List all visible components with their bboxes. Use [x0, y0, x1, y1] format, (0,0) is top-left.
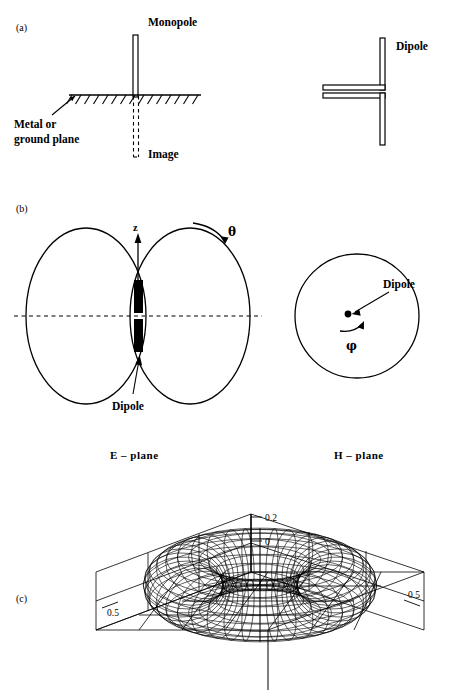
ground-plane-label-line1: Metal or — [14, 118, 56, 130]
torus-wireframe-mesh — [143, 528, 376, 642]
dipole-lower-feed — [323, 93, 385, 98]
ground-plane-label-line2: ground plane — [14, 133, 79, 146]
e-plane-caption: E – plane — [110, 449, 159, 461]
theta-label: θ — [228, 225, 236, 239]
monopole-image-dashed — [134, 96, 139, 157]
dipole-bar-lower — [134, 319, 143, 352]
monopole-label: Monopole — [148, 16, 197, 29]
panel-a: (a) Monopole Metal or ground p — [14, 16, 428, 161]
h-plane-dipole-leader — [355, 292, 389, 312]
y-tick-label-0.5: 0.5 — [408, 590, 420, 600]
y-tick-0.5 — [404, 600, 420, 606]
panel-c-marker: (c) — [16, 593, 27, 605]
h-plane-caption: H – plane — [334, 449, 384, 461]
h-plane-dipole-point — [345, 311, 352, 318]
h-plane-pattern-circle — [295, 254, 419, 378]
dipole-lower-arm — [380, 93, 385, 145]
panel-a-marker: (a) — [16, 22, 27, 34]
phi-arrowhead — [358, 321, 364, 330]
torus-3d-plot: 0.2 0 0.5 0.5 — [96, 513, 424, 690]
ground-plane-hatching — [67, 95, 199, 104]
h-plane-dipole-leader-arrow — [352, 309, 361, 315]
dipole-upper-feed — [323, 85, 385, 90]
panel-b-marker: (b) — [16, 203, 28, 215]
panel-b: (b) z Dipole θ Dipole — [14, 203, 419, 461]
z-tick-label-0.2: 0.2 — [265, 513, 277, 523]
x-tick-label-0.5: 0.5 — [107, 608, 119, 618]
monopole-rod — [133, 35, 138, 97]
theta-arc — [193, 223, 224, 240]
phi-arc — [340, 324, 362, 331]
phi-label: φ — [346, 339, 357, 353]
image-label: Image — [148, 148, 179, 161]
figure-canvas: (a) Monopole Metal or ground p — [0, 0, 452, 697]
h-plane-dipole-label: Dipole — [383, 278, 415, 291]
dipole-bar-upper — [134, 280, 143, 313]
z-axis-label: z — [133, 222, 138, 233]
e-plane-dipole-label: Dipole — [112, 400, 144, 413]
panel-c: (c) — [16, 513, 424, 690]
z-axis-arrowhead — [135, 233, 142, 243]
dipole-upper-arm — [380, 38, 385, 90]
figure-root: (a) Monopole Metal or ground p — [0, 0, 452, 697]
dipole-label-a: Dipole — [396, 40, 428, 53]
floor-grid-d6 — [354, 572, 381, 630]
dipole-structure — [323, 38, 385, 145]
